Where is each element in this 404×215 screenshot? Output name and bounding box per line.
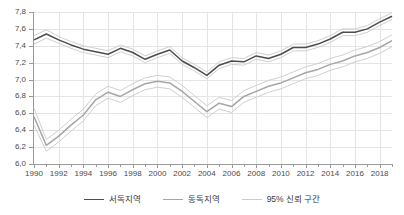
chart-legend: 서독지역동독지역95% 신뢰 구간 [0, 190, 404, 208]
legend-label: 95% 신뢰 구간 [267, 195, 321, 204]
legend-swatch-icon [163, 199, 183, 200]
legend-item[interactable]: 서독지역 [84, 195, 141, 204]
series-layer [0, 0, 404, 215]
legend-item[interactable]: 동독지역 [163, 195, 220, 204]
confidence-interval-line [34, 13, 392, 72]
legend-label: 서독지역 [109, 195, 141, 204]
line-chart: 6,06,26,46,66,87,07,27,47,67,8 199019921… [0, 0, 404, 215]
legend-swatch-icon [84, 199, 104, 200]
legend-item[interactable]: 95% 신뢰 구간 [242, 195, 321, 204]
legend-label: 동독지역 [188, 195, 220, 204]
legend-swatch-icon [242, 199, 262, 200]
